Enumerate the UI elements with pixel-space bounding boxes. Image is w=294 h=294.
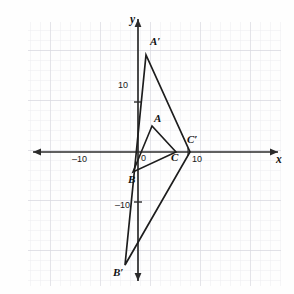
coordinate-plane-figure [0, 0, 294, 294]
vertex-label-a-prime: A′ [150, 36, 160, 47]
vertex-label-b-prime: B′ [113, 267, 123, 278]
vertex-label-c: C [171, 152, 178, 163]
origin-label: 0 [141, 154, 146, 163]
diagram-canvas: y x –10 10 10 –10 0 A′ A B B′ C C′ [0, 0, 294, 294]
y-tick-label-positive-ten: 10 [118, 81, 128, 90]
x-axis-label: x [276, 154, 282, 166]
x-tick-label-positive-ten: 10 [192, 155, 202, 164]
vertex-label-a: A [154, 113, 161, 124]
y-tick-label-negative-ten: –10 [115, 201, 130, 210]
y-axis-label: y [130, 14, 135, 26]
vertex-label-b: B [128, 174, 135, 185]
vertex-label-c-prime: C′ [187, 134, 197, 145]
grid-layer [28, 22, 281, 286]
x-tick-label-negative-ten: –10 [72, 155, 87, 164]
